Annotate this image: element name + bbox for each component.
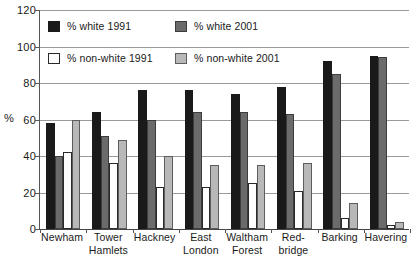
x-axis-tick-labels: NewhamTowerHamletsHackneyEastLondonWalth…	[39, 231, 409, 258]
legend-item-white-2001[interactable]: % white 2001	[175, 20, 258, 32]
bar-non-white-1991[interactable]	[156, 187, 165, 229]
bar-non-white-1991[interactable]	[387, 225, 396, 229]
x-label-barking: Barking	[317, 231, 363, 244]
bar-white-2001[interactable]	[332, 74, 341, 229]
bar-non-white-1991[interactable]	[341, 218, 350, 229]
legend-label: % non-white 1991	[67, 52, 153, 64]
legend-item-white-1991[interactable]: % white 1991	[48, 20, 131, 32]
bar-non-white-1991[interactable]	[109, 163, 118, 229]
y-tick-40: 40	[0, 150, 36, 162]
bar-non-white-1991[interactable]	[63, 152, 72, 229]
bar-non-white-2001[interactable]	[72, 120, 81, 230]
legend-swatch-icon	[48, 53, 60, 64]
bar-non-white-2001[interactable]	[395, 222, 404, 229]
bar-chart: % 020406080100120 NewhamTowerHamletsHack…	[0, 0, 413, 258]
bar-non-white-2001[interactable]	[210, 165, 219, 229]
y-tick-80: 80	[0, 77, 36, 89]
bar-group-barking	[323, 10, 357, 229]
bar-white-2001[interactable]	[193, 112, 202, 229]
x-label-east-london: EastLondon	[178, 231, 224, 257]
bar-white-2001[interactable]	[286, 114, 295, 229]
bar-white-2001[interactable]	[101, 136, 110, 229]
bar-non-white-2001[interactable]	[164, 156, 173, 229]
x-tickmark-end	[410, 229, 411, 233]
x-label-newham: Newham	[39, 231, 85, 244]
x-label-waltham-forest: WalthamForest	[224, 231, 270, 257]
bar-white-1991[interactable]	[185, 90, 194, 229]
bar-white-1991[interactable]	[323, 61, 332, 229]
legend-item-non-white-2001[interactable]: % non-white 2001	[175, 52, 280, 64]
legend-swatch-icon	[175, 53, 187, 64]
bar-white-1991[interactable]	[370, 56, 379, 229]
bar-group-havering	[370, 10, 404, 229]
legend-label: % white 2001	[194, 20, 258, 32]
chart-legend: % white 1991% white 2001% non-white 1991…	[48, 20, 278, 72]
y-tick-120: 120	[0, 4, 36, 16]
legend-label: % white 1991	[67, 20, 131, 32]
bar-white-2001[interactable]	[55, 156, 64, 229]
legend-item-non-white-1991[interactable]: % non-white 1991	[48, 52, 153, 64]
y-axis-tick-labels: 020406080100120	[0, 0, 36, 258]
legend-swatch-icon	[48, 21, 60, 32]
bar-white-2001[interactable]	[240, 112, 249, 229]
bar-white-2001[interactable]	[378, 57, 387, 229]
bar-white-2001[interactable]	[147, 120, 156, 230]
x-label-tower-hamlets: TowerHamlets	[85, 231, 131, 257]
bar-non-white-2001[interactable]	[257, 165, 266, 229]
y-tick-0: 0	[0, 223, 36, 235]
bar-white-1991[interactable]	[231, 94, 240, 229]
y-tick-20: 20	[0, 187, 36, 199]
bar-group-red-bridge	[277, 10, 311, 229]
bar-non-white-2001[interactable]	[303, 163, 312, 229]
bar-non-white-1991[interactable]	[248, 183, 257, 229]
bar-non-white-1991[interactable]	[202, 187, 211, 229]
bar-non-white-2001[interactable]	[118, 140, 127, 229]
x-label-red-bridge: Red-bridge	[270, 231, 316, 257]
bar-white-1991[interactable]	[138, 90, 147, 229]
bar-non-white-2001[interactable]	[349, 203, 358, 229]
bar-non-white-1991[interactable]	[294, 191, 303, 229]
bar-white-1991[interactable]	[277, 87, 286, 229]
x-label-havering: Havering	[363, 231, 409, 244]
legend-swatch-icon	[175, 21, 187, 32]
y-tick-100: 100	[0, 41, 36, 53]
x-label-hackney: Hackney	[132, 231, 178, 244]
bar-white-1991[interactable]	[92, 112, 101, 229]
bar-white-1991[interactable]	[46, 123, 55, 229]
legend-label: % non-white 2001	[194, 52, 280, 64]
y-tick-60: 60	[0, 114, 36, 126]
